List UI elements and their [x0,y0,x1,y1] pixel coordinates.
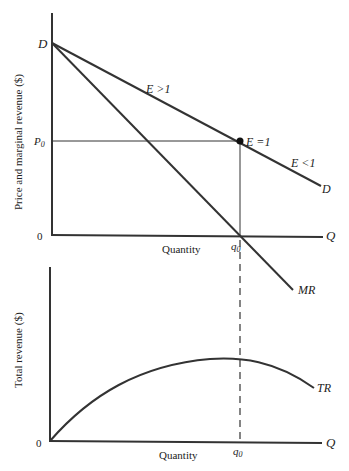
unit-elastic-label: E =1 [245,135,270,149]
top-x-axis [51,235,323,237]
bottom-q0-sub: 0 [239,450,243,459]
demand-end-label: D [321,182,331,196]
bottom-q0-label: q0 [233,445,243,459]
top-x-axis-title: Quantity [162,243,201,255]
bottom-q-axis-label: Q [326,435,336,450]
tr-label: TR [317,381,332,395]
top-y-axis-title: Price and marginal revenue ($) [12,74,25,210]
bottom-y-axis-title: Total revenue ($) [12,312,25,388]
unit-elastic-point [237,138,244,145]
elastic-label: E >1 [145,82,170,96]
bottom-x-axis [49,441,322,443]
mr-label: MR [297,283,316,297]
p0-label-sub: 0 [41,140,45,149]
elasticity-diagram: D D E >1 E =1 E <1 MR P0 0 Q Quantity q0… [0,0,349,471]
demand-curve [52,43,321,186]
top-origin-label: 0 [37,230,43,242]
p0-label: P0 [33,135,45,149]
inelastic-label: E <1 [290,156,315,170]
bottom-x-axis-title: Quantity [159,449,198,461]
demand-intercept-label: D [37,36,48,51]
top-q0-label: q0 [231,240,241,254]
bottom-chart: TR 0 Q Quantity q0 Total revenue ($) [12,267,336,461]
top-q-axis-label: Q [326,228,336,243]
top-chart: D D E >1 E =1 E <1 MR P0 0 Q Quantity q0… [12,13,336,297]
bottom-origin-label: 0 [36,437,42,449]
tr-curve [50,359,314,441]
